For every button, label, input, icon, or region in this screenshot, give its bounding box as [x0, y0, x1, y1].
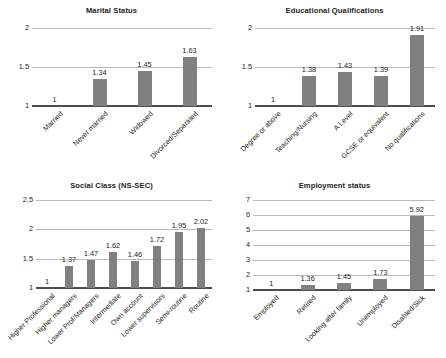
chart-panel-social-class: Social Class (NS-SEC) 11.522.511.371.471…: [0, 176, 223, 358]
y-axis-tick-label: 2.5: [23, 196, 33, 203]
gridline: [36, 200, 212, 201]
y-axis-tick-label: 5: [246, 226, 250, 233]
y-axis-tick-label: 4: [246, 241, 250, 248]
category-axis-label: Unemployed: [356, 294, 390, 328]
gridline: [253, 230, 435, 231]
y-axis-tick-label: 2: [29, 226, 33, 233]
bar: [338, 72, 352, 106]
y-axis-tick-label: 1: [25, 102, 29, 109]
bar-value-label: 1.39: [364, 66, 398, 73]
bar-value-label: 1.63: [173, 47, 207, 54]
bar: [87, 260, 96, 288]
gridline: [253, 215, 435, 216]
plot-area: 11.5211.341.451.63: [32, 28, 212, 106]
category-axis-label: Divorced/Separated: [149, 110, 199, 160]
bar-value-label: 1.47: [74, 250, 108, 257]
y-axis-tick-label: 1.5: [19, 63, 29, 70]
bar: [183, 57, 197, 106]
category-axis-label: No qualifications: [384, 110, 426, 152]
y-axis-tick-label: 1: [246, 286, 250, 293]
bar: [410, 216, 424, 290]
category-axis: MarriedNever marriedWidowedDivorced/Sepa…: [32, 108, 212, 168]
y-axis-tick-label: 1: [29, 284, 33, 291]
chart-title: Social Class (NS-SEC): [0, 181, 223, 190]
bar: [373, 279, 387, 290]
bar-value-label: 1: [254, 280, 288, 287]
y-axis-tick-label: 3: [246, 256, 250, 263]
bar: [197, 228, 206, 288]
category-axis-label: Routine: [187, 292, 210, 315]
gridline: [253, 245, 435, 246]
bar-value-label: 1.38: [292, 66, 326, 73]
category-axis: Higher ProfessionalHigher managersLower …: [36, 290, 212, 356]
category-axis-label: Disabled/Sick: [390, 294, 426, 330]
y-axis-tick-label: 1: [248, 102, 252, 109]
plot-area: 11.522.511.371.471.621.461.721.952.02: [36, 200, 212, 288]
bar-value-label: 1.36: [291, 275, 325, 282]
bar: [374, 76, 388, 106]
chart-panel-marital-status: Marital Status 11.5211.341.451.63 Marrie…: [0, 0, 223, 176]
bar-value-label: 5.92: [400, 206, 434, 213]
category-axis: Degree or aboveTeaching/NursingA LevelGC…: [255, 108, 435, 168]
bar-value-label: 1.72: [140, 236, 174, 243]
chart-panel-educational-qualifications: Educational Qualifications 11.5211.381.4…: [223, 0, 446, 176]
gridline: [32, 28, 212, 29]
y-axis-tick-label: 7: [246, 196, 250, 203]
bar-value-label: 1.34: [83, 69, 117, 76]
category-axis-label: Retired: [295, 294, 316, 315]
gridline: [253, 260, 435, 261]
gridline: [253, 200, 435, 201]
bar: [131, 261, 140, 288]
y-axis-tick-label: 1.5: [242, 63, 252, 70]
bar-value-label: 1: [30, 278, 64, 285]
y-axis-tick-label: 2: [25, 24, 29, 31]
bar: [109, 252, 118, 288]
bar: [175, 232, 184, 288]
category-axis-label: Never married: [71, 110, 108, 147]
bar: [410, 35, 424, 106]
category-axis-label: A Level: [332, 110, 354, 132]
plot-area: 11.5211.381.431.391.91: [255, 28, 435, 106]
category-axis-label: Employed: [253, 294, 281, 322]
y-axis-tick-label: 1.5: [23, 255, 33, 262]
y-axis-tick-label: 6: [246, 211, 250, 218]
bar-value-label: 2.02: [184, 218, 218, 225]
y-axis-tick-label: 2: [246, 271, 250, 278]
bar: [153, 246, 162, 288]
bar-value-label: 1.73: [363, 269, 397, 276]
bar-value-label: 1.43: [328, 62, 362, 69]
bar-value-label: 1.45: [327, 273, 361, 280]
bar: [65, 266, 74, 288]
bar: [138, 71, 152, 106]
x-axis-line: [36, 287, 212, 289]
chart-title: Employment status: [223, 181, 446, 190]
chart-title: Marital Status: [0, 6, 223, 15]
chart-panel-employment-status: Employment status 123456711.361.451.735.…: [223, 176, 446, 358]
bar: [301, 285, 315, 290]
category-axis: EmployedRetiredLooking after familyUnemp…: [253, 292, 435, 356]
category-axis-label: Married: [41, 110, 63, 132]
bar-value-label: 1.62: [96, 242, 130, 249]
bar-value-label: 1: [256, 96, 290, 103]
bar-value-label: 1: [38, 96, 72, 103]
bar: [302, 76, 316, 106]
bar: [337, 283, 351, 290]
bar-value-label: 1.91: [400, 25, 434, 32]
bar-value-label: 1.46: [118, 251, 152, 258]
bar-value-label: 1.45: [128, 61, 162, 68]
y-axis-tick-label: 2: [248, 24, 252, 31]
bar: [93, 79, 107, 106]
figure-page: Marital Status 11.5211.341.451.63 Marrie…: [0, 0, 446, 358]
category-axis-label: Widowed: [128, 110, 154, 136]
plot-area: 123456711.361.451.735.92: [253, 200, 435, 290]
chart-title: Educational Qualifications: [223, 6, 446, 15]
